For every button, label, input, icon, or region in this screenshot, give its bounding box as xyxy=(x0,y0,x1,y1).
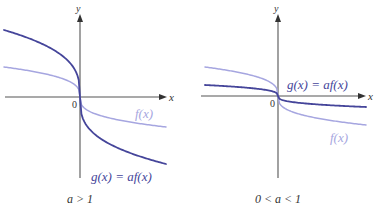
y-axis-label: y xyxy=(273,3,279,14)
y-axis-arrow-icon xyxy=(275,14,281,22)
panel-right: x y 0 f(x) g(x) = af(x) 0 < a < 1 xyxy=(201,3,373,206)
y-axis-label: y xyxy=(75,3,81,14)
f-label: f(x) xyxy=(135,106,153,121)
panel-left: x y 0 f(x) g(x) = af(x) a > 1 xyxy=(4,3,174,206)
diagram-canvas: x y 0 f(x) g(x) = af(x) a > 1 x y 0 f(x)… xyxy=(0,0,375,212)
x-axis-label: x xyxy=(367,90,373,102)
y-axis-arrow-icon xyxy=(77,14,83,22)
x-axis-label: x xyxy=(168,91,174,103)
origin-label: 0 xyxy=(270,98,275,109)
x-axis-arrow-icon xyxy=(358,93,366,99)
origin-label: 0 xyxy=(72,99,77,110)
g-label: g(x) = af(x) xyxy=(287,77,348,92)
caption: a > 1 xyxy=(67,192,93,206)
caption: 0 < a < 1 xyxy=(255,192,301,206)
x-axis-arrow-icon xyxy=(159,94,167,100)
f-label: f(x) xyxy=(330,130,348,145)
caption-text: 0 < a < 1 xyxy=(255,192,301,206)
g-label: g(x) = af(x) xyxy=(91,169,152,184)
caption-text: a > 1 xyxy=(67,192,93,206)
